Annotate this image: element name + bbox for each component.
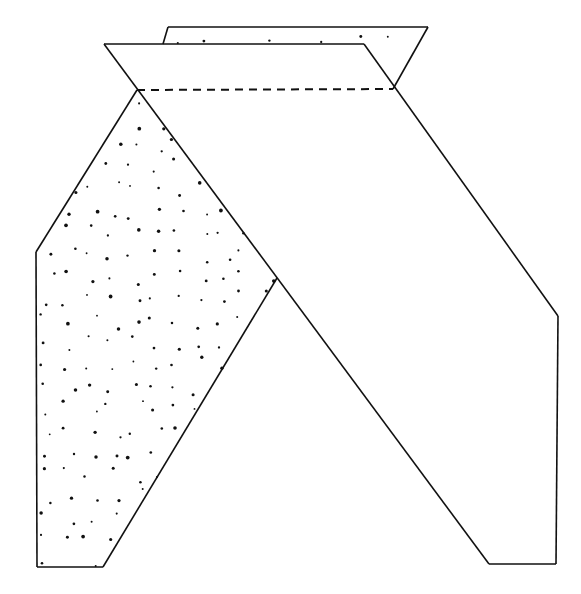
stipple-dot (137, 320, 141, 324)
stipple-dot (170, 364, 173, 367)
stipple-dot (222, 278, 225, 281)
outline-edge (393, 27, 428, 89)
stipple-dot (83, 475, 85, 477)
stipple-dot (206, 233, 208, 235)
stipple-dot (192, 393, 195, 396)
stipple-dot (49, 502, 52, 505)
stipple-dot (39, 364, 42, 367)
outline-edge (103, 278, 277, 567)
stipple-dot (116, 455, 119, 458)
stipple-dot (138, 102, 140, 104)
stipple-dot (66, 536, 69, 539)
stipple-dot (104, 403, 106, 405)
stipple-dot (119, 436, 121, 438)
stipple-dot (216, 232, 218, 234)
stipple-dot (200, 299, 202, 301)
stipple-dot (86, 294, 88, 296)
stipple-dot (39, 511, 43, 515)
stipple-dot (237, 290, 240, 293)
stipple-dot (40, 534, 42, 536)
stipple-dot (73, 522, 76, 525)
stipple-dot (237, 270, 240, 273)
stipple-dot (49, 253, 52, 256)
stipple-dot (137, 228, 141, 232)
stipple-dot (112, 467, 115, 470)
stipple-dot (172, 404, 175, 407)
stipple-dot (139, 299, 142, 302)
stipple-dot (135, 383, 138, 386)
stipple-dot (117, 327, 121, 331)
stipple-dot (88, 383, 91, 386)
stipple-dot (67, 213, 70, 216)
stipple-dot (96, 315, 98, 317)
stipple-dot (108, 277, 110, 279)
stipple-dot (161, 150, 163, 152)
front-band-paper (104, 44, 393, 90)
stipple-dot (218, 346, 220, 348)
outline-edge (104, 44, 489, 564)
stipple-dot (265, 290, 268, 293)
stipple-dot (206, 214, 208, 216)
stipple-dot (137, 283, 140, 286)
stipple-dot (41, 383, 44, 386)
stipple-dot (63, 467, 65, 469)
stipple-dot (104, 162, 107, 165)
stipple-dot (177, 249, 180, 252)
stipple-dot (114, 215, 117, 218)
stipple-dot (229, 258, 232, 261)
stipple-dot (237, 249, 239, 251)
stipple-dot (74, 191, 77, 194)
stipple-dot (107, 234, 109, 236)
stipple-dot (70, 497, 73, 500)
stipple-dot (223, 300, 226, 303)
back-flap-stipple (177, 35, 389, 44)
diagram-outline (36, 27, 558, 567)
stipple-dot (149, 451, 152, 454)
stipple-dot (179, 270, 182, 273)
stipple-dot (200, 356, 203, 359)
stipple-dot (268, 39, 270, 41)
stipple-dot (74, 247, 77, 250)
folding-diagram (0, 0, 581, 594)
stipple-dot (81, 535, 85, 539)
stipple-dot (153, 347, 156, 350)
stipple-dot (93, 431, 96, 434)
stipple-dot (158, 208, 161, 211)
stipple-dot (173, 229, 176, 232)
stipple-dot (105, 257, 109, 261)
stipple-dot (43, 467, 46, 470)
stipple-dot (94, 455, 97, 458)
stipple-dot (320, 41, 322, 43)
stipple-dot (66, 322, 70, 326)
stipple-dot (64, 270, 68, 274)
stipple-dot (139, 481, 142, 484)
stipple-dot (88, 335, 90, 337)
stipple-dot (91, 280, 94, 283)
stipple-dot (43, 455, 46, 458)
stipple-dot (85, 368, 87, 370)
outline-edge (556, 316, 558, 564)
stipple-dot (149, 385, 152, 388)
stipple-dot (172, 157, 175, 160)
stipple-dot (118, 181, 120, 183)
stipple-dot (202, 40, 205, 43)
stipple-dot (131, 335, 134, 338)
stipple-dot (161, 427, 164, 430)
stipple-dot (197, 345, 200, 348)
stipple-dot (157, 187, 160, 190)
stipple-dot (106, 339, 108, 341)
outline-edge (36, 90, 137, 252)
stipple-dot (135, 143, 137, 145)
stipple-dot (42, 341, 45, 344)
stipple-dot (149, 297, 151, 299)
stipple-dot (142, 400, 144, 402)
stipple-dot (137, 127, 141, 131)
stipple-dot (198, 181, 202, 185)
stipple-dot (148, 316, 151, 319)
stipple-dot (64, 223, 68, 227)
stipple-dot (96, 210, 100, 214)
stipple-dot (196, 327, 199, 330)
stipple-dot (173, 426, 177, 430)
stipple-dot (109, 295, 113, 299)
stipple-dot (153, 249, 156, 252)
